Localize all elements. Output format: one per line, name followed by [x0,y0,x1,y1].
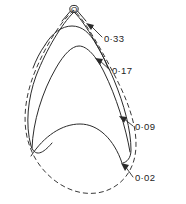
apex-left-edge [62,11,71,21]
contour-009-curve [28,13,73,153]
label-contour-009: 0·09 [135,121,155,132]
contour-033-curve-extension [33,45,45,68]
contour-002-curve [31,124,122,163]
contour-diagram-canvas: O 0·33 0·17 0·09 0·02 [0,0,186,204]
label-contour-033: 0·33 [104,33,124,44]
label-contour-002: 0·02 [135,172,155,183]
contour-017-curve [32,46,130,152]
figure-root: O 0·33 0·17 0·09 0·02 [0,0,186,204]
contour-033-curve-extension-right [96,44,108,68]
label-contour-017: 0·17 [112,65,132,76]
apex-label-o: O [71,5,77,14]
arrow-head-017 [95,58,103,65]
